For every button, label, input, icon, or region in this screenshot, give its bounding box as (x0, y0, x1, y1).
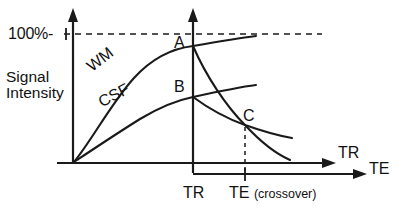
x-axis-label-tr: TR (338, 145, 359, 162)
y-axis-title: Signal Intensity (6, 69, 64, 102)
plot-canvas (0, 0, 407, 213)
point-label-b: B (174, 79, 185, 96)
y-axis-title-line-2: Intensity (6, 85, 64, 101)
tick-label-te-note: (crossover) (254, 187, 317, 201)
wm-decay-curve (193, 46, 290, 160)
y-axis-arrowhead (68, 8, 78, 22)
tr-vertical-axis-arrowhead (188, 8, 198, 22)
point-label-a: A (174, 35, 185, 52)
signal-intensity-diagram: 100%- Signal Intensity WM CSF A B C TR T… (0, 0, 407, 213)
y-axis-title-line-1: Signal (6, 69, 64, 85)
point-label-c: C (243, 108, 255, 125)
te-axis-arrowhead (353, 169, 367, 179)
y-axis-tick-label-100-percent: 100%- (8, 26, 53, 43)
tr-axis-arrowhead (322, 158, 336, 168)
tick-label-te-text: TE (229, 184, 249, 201)
x-axis-label-te: TE (369, 161, 389, 178)
tick-label-te-crossover: TE (crossover) (229, 185, 316, 202)
tick-label-tr: TR (183, 185, 204, 202)
